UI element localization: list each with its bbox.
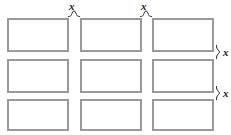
right-brace-icon: [216, 86, 223, 100]
gap-label-right-1: x: [223, 47, 229, 58]
gap-label-right-2: x: [223, 88, 229, 99]
grid-cell-r1c3: [152, 18, 214, 52]
grid-cell-r2c3: [152, 59, 214, 93]
grid-cell-r3c1: [7, 99, 69, 131]
grid-cell-r3c3: [152, 99, 214, 131]
grid-cell-r2c2: [80, 59, 142, 93]
grid-cell-r1c2: [80, 18, 142, 52]
grid-cell-r1c1: [7, 18, 69, 52]
grid-cell-r2c1: [7, 59, 69, 93]
gap-label-top-2: x: [141, 1, 147, 12]
grid-diagram: x x x x: [0, 0, 231, 135]
gap-label-top-1: x: [69, 1, 75, 12]
grid-cell-r3c2: [80, 99, 142, 131]
right-brace-icon: [216, 45, 223, 59]
